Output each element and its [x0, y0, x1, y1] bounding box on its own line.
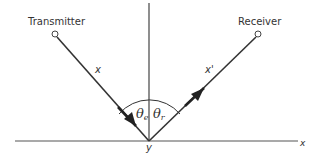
- incident-arrow-shaft: [118, 107, 136, 126]
- reflection-point-label: y: [146, 143, 152, 153]
- transmitter-node: [52, 31, 58, 37]
- reflected-ray-label: x': [205, 65, 214, 75]
- reflected-arrow-shaft: [185, 88, 204, 106]
- theta-e-label: θe: [136, 107, 149, 122]
- theta-r-label: θr: [153, 107, 165, 122]
- receiver-label: Receiver: [238, 17, 281, 27]
- x-axis-label: x: [300, 139, 305, 148]
- receiver-node: [255, 31, 261, 37]
- transmitter-label: Transmitter: [28, 17, 85, 27]
- incident-ray-label: x: [95, 65, 101, 75]
